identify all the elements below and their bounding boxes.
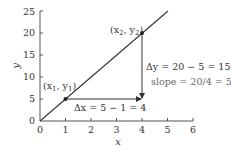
point-1-label: (x1, y1) xyxy=(43,80,76,93)
slope-chart: 0 5 10 15 20 25 0 1 2 3 4 5 6 x y (x1, y… xyxy=(0,0,231,150)
delta-y-annotation: Δy = 20 − 5 = 15 xyxy=(146,61,230,72)
y-tick-labels: 0 5 10 15 20 25 xyxy=(23,6,35,126)
x-tick-5: 5 xyxy=(164,124,170,135)
y-tick-0: 0 xyxy=(29,115,35,126)
y-axis xyxy=(40,11,43,121)
point-1-marker xyxy=(64,97,68,101)
x-tick-6: 6 xyxy=(190,124,196,135)
p2-close: ) xyxy=(139,24,143,35)
x-tick-2: 2 xyxy=(88,124,94,135)
x-tick-3: 3 xyxy=(113,124,119,135)
y-tick-5: 5 xyxy=(29,93,35,104)
x-tick-labels: 0 1 2 3 4 5 6 xyxy=(37,124,196,135)
slope-annotation: slope = 20/4 = 5 xyxy=(151,76,231,87)
y-tick-25: 25 xyxy=(23,6,35,17)
p1-close: ) xyxy=(72,80,76,91)
y-axis-label: y xyxy=(10,63,21,70)
y-tick-10: 10 xyxy=(23,71,35,82)
x-tick-1: 1 xyxy=(62,124,68,135)
x-axis-label: x xyxy=(115,136,121,147)
y-tick-15: 15 xyxy=(23,49,35,60)
y-tick-20: 20 xyxy=(23,27,35,38)
x-tick-4: 4 xyxy=(139,124,145,135)
x-axis xyxy=(40,118,193,121)
x-tick-0: 0 xyxy=(37,124,43,135)
p1-mid: , y xyxy=(57,80,69,91)
p2-mid: , y xyxy=(124,24,136,35)
point-2-label: (x2, y2) xyxy=(110,24,143,37)
delta-x-annotation: Δx = 5 − 1 = 4 xyxy=(74,102,146,113)
